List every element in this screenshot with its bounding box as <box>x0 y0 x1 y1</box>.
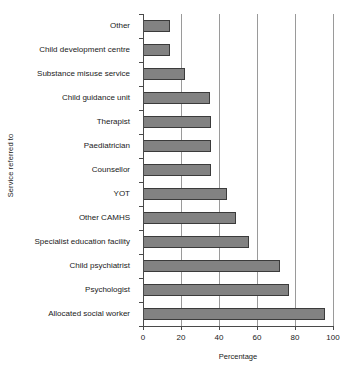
y-tick-label: Therapist <box>97 116 130 128</box>
y-tick-label: Specialist education facility <box>34 236 130 248</box>
plot-area <box>143 14 333 326</box>
y-axis-tick <box>139 14 143 15</box>
x-axis-line <box>143 326 333 327</box>
y-axis-tick <box>139 134 143 135</box>
bar <box>143 212 236 224</box>
y-axis-tick <box>139 278 143 279</box>
y-axis-tick <box>139 110 143 111</box>
x-tick-label: 20 <box>166 333 196 343</box>
y-tick-label: Other <box>110 20 130 32</box>
x-axis-tick <box>257 326 258 330</box>
x-tick-label: 40 <box>204 333 234 343</box>
y-axis-tick <box>139 206 143 207</box>
bar <box>143 260 280 272</box>
x-tick-label: 60 <box>242 333 272 343</box>
x-tick-label: 100 <box>318 333 348 343</box>
x-axis-tick <box>219 326 220 330</box>
bar <box>143 188 227 200</box>
y-tick-label: Psychologist <box>85 284 130 296</box>
bar-series <box>143 14 333 326</box>
y-axis-tick <box>139 230 143 231</box>
bar <box>143 20 170 32</box>
y-axis-tick <box>139 302 143 303</box>
x-tick-label: 0 <box>128 333 158 343</box>
bar <box>143 92 210 104</box>
y-axis-title-text: Service referred to <box>7 133 16 197</box>
y-tick-label: Allocated social worker <box>48 308 130 320</box>
y-tick-label: Child psychiatrist <box>70 260 130 272</box>
y-axis-tick <box>139 158 143 159</box>
bar <box>143 116 211 128</box>
bar <box>143 164 211 176</box>
bar <box>143 44 170 56</box>
x-axis-title: Percentage <box>143 352 333 361</box>
y-tick-label: Substance misuse service <box>37 68 130 80</box>
y-axis-tick <box>139 38 143 39</box>
x-axis-tick <box>295 326 296 330</box>
y-tick-label: Other CAMHS <box>79 212 130 224</box>
bar <box>143 284 289 296</box>
y-axis-title: Service referred to <box>0 0 22 330</box>
y-tick-label: YOT <box>114 188 130 200</box>
y-tick-label: Child development centre <box>39 44 130 56</box>
bar <box>143 140 211 152</box>
gridline-100 <box>333 14 334 326</box>
y-axis-tick <box>139 62 143 63</box>
x-axis-tick <box>333 326 334 330</box>
bar-chart: Service referred to OtherChild developme… <box>0 0 353 380</box>
y-axis-tick-labels: OtherChild development centreSubstance m… <box>22 14 136 326</box>
y-axis-tick <box>139 254 143 255</box>
y-tick-label: Paediatrician <box>84 140 130 152</box>
y-axis-line <box>143 14 144 326</box>
x-tick-label: 80 <box>280 333 310 343</box>
y-axis-tick <box>139 86 143 87</box>
y-tick-label: Child guidance unit <box>62 92 130 104</box>
bar <box>143 308 325 320</box>
y-tick-label: Counsellor <box>92 164 130 176</box>
x-axis-tick <box>181 326 182 330</box>
bar <box>143 68 185 80</box>
y-axis-tick <box>139 182 143 183</box>
bar <box>143 236 249 248</box>
x-axis-tick <box>143 326 144 330</box>
